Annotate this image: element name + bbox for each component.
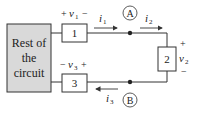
node-b-dot	[128, 80, 132, 84]
node-b-label: B	[123, 93, 137, 107]
node-a-dot	[128, 31, 132, 35]
svg-text:+: +	[180, 38, 186, 49]
rest-label-line3: circuit	[14, 66, 45, 80]
element-2: 2	[158, 47, 176, 71]
circuit-diagram: Rest of the circuit 1 + v 1 − 3 − v 3 + …	[0, 0, 197, 116]
svg-text:3: 3	[110, 98, 114, 106]
voltage-v3: − v 3 +	[60, 58, 87, 72]
svg-text:3: 3	[74, 64, 78, 72]
svg-text:+: +	[81, 59, 87, 70]
voltage-v1: + v 1 −	[61, 7, 88, 21]
node-a-label: A	[123, 6, 137, 20]
rest-of-circuit-box: Rest of the circuit	[7, 24, 51, 92]
svg-text:−: −	[60, 59, 66, 70]
rest-label-line1: Rest of	[12, 36, 46, 50]
svg-text:−: −	[181, 66, 187, 77]
svg-text:+: +	[61, 8, 67, 19]
current-i3: i 3	[96, 89, 118, 106]
svg-text:A: A	[126, 8, 134, 19]
svg-text:i: i	[99, 12, 102, 24]
svg-text:1: 1	[75, 13, 79, 21]
svg-text:v: v	[179, 52, 184, 64]
voltage-v2: + v 2 −	[179, 38, 189, 77]
svg-text:1: 1	[103, 18, 107, 26]
svg-text:2: 2	[185, 58, 189, 66]
element-1-label: 1	[72, 27, 78, 39]
svg-text:v: v	[68, 58, 73, 70]
element-3: 3	[62, 74, 87, 92]
element-1: 1	[62, 24, 87, 42]
svg-text:i: i	[145, 12, 148, 24]
svg-text:2: 2	[149, 18, 153, 26]
current-i1: i 1	[94, 12, 117, 28]
rest-label-line2: the	[22, 51, 37, 65]
element-3-label: 3	[72, 77, 78, 89]
element-2-label: 2	[164, 53, 170, 65]
svg-text:−: −	[82, 8, 88, 19]
svg-text:v: v	[69, 7, 74, 19]
svg-text:i: i	[106, 92, 109, 104]
svg-text:B: B	[127, 95, 134, 106]
current-i2: i 2	[140, 12, 162, 28]
